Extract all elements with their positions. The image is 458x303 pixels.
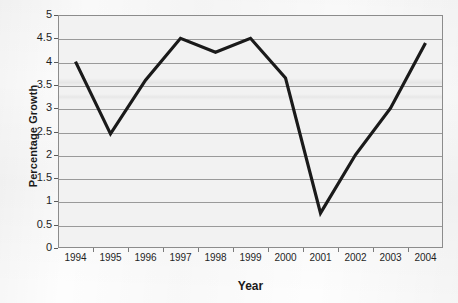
line-chart: Percentage Growth 00.511.522.533.544.55 …: [0, 0, 458, 303]
x-axis-tick-mark: [303, 248, 304, 252]
x-axis-tick-mark: [338, 248, 339, 252]
x-axis-tick-mark: [198, 248, 199, 252]
y-axis-tick-label: 4.5: [14, 31, 52, 43]
x-axis-tick-mark: [233, 248, 234, 252]
y-axis-tick-label: 3: [14, 101, 52, 113]
x-axis-tick-label: 2002: [336, 252, 376, 263]
x-axis-tick-label: 1999: [231, 252, 271, 263]
x-axis-tick-label: 1996: [126, 252, 166, 263]
x-axis-tick-label: 2003: [371, 252, 411, 263]
x-axis-tick-label: 1997: [161, 252, 201, 263]
x-axis-tick-label: 1998: [196, 252, 236, 263]
x-axis-tick-mark: [373, 248, 374, 252]
y-axis-tick-label: 0.5: [14, 218, 52, 230]
data-series-line: [58, 15, 443, 248]
x-axis-tick-mark: [163, 248, 164, 252]
series-polyline: [76, 38, 426, 213]
x-axis-tick-label: 1995: [91, 252, 131, 263]
x-axis-tick-mark: [268, 248, 269, 252]
y-axis-tick-label: 1.5: [14, 171, 52, 183]
y-axis-tick-label: 5: [14, 8, 52, 20]
y-axis-tick-label: 0: [14, 241, 52, 253]
x-axis-tick-label: 2001: [301, 252, 341, 263]
y-axis-tick-label: 3.5: [14, 78, 52, 90]
x-axis-tick-label: 2000: [266, 252, 306, 263]
x-axis-tick-mark: [128, 248, 129, 252]
y-axis-tick-label: 4: [14, 55, 52, 67]
x-axis-tick-label: 1994: [56, 252, 96, 263]
y-axis-tick-label: 1: [14, 194, 52, 206]
x-axis-tick-label: 2004: [406, 252, 446, 263]
x-axis-tick-mark: [93, 248, 94, 252]
x-axis-tick-mark: [408, 248, 409, 252]
y-axis-tick-label: 2.5: [14, 125, 52, 137]
x-axis-title: Year: [58, 279, 443, 293]
y-axis-tick-mark: [54, 248, 58, 249]
y-axis-tick-label: 2: [14, 148, 52, 160]
